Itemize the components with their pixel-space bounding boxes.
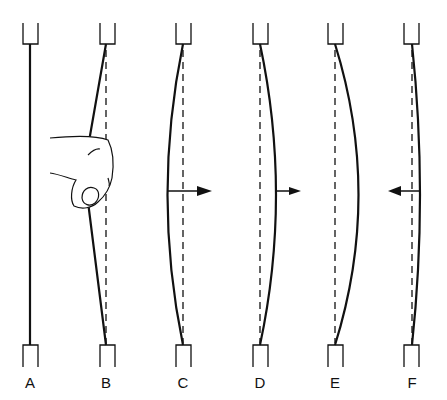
arrow-left-f (388, 186, 420, 196)
panel-label-a: A (20, 374, 40, 391)
string-d (260, 44, 276, 345)
finger-icon (50, 136, 113, 208)
arrow-right-c (167, 186, 212, 196)
vibrating-string-diagram (0, 0, 447, 400)
arrow-right-d (276, 187, 301, 195)
panel-label-e: E (325, 374, 345, 391)
panel-label-b: B (96, 374, 116, 391)
panel-label-f: F (402, 374, 422, 391)
panel-label-d: D (250, 374, 270, 391)
panel-label-c: C (173, 374, 193, 391)
string-f (412, 44, 420, 345)
string-c (168, 44, 184, 345)
string-e (335, 44, 359, 345)
